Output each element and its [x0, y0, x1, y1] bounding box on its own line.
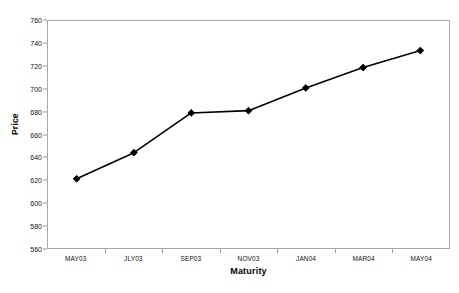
y-axis-tick-mark	[43, 226, 47, 227]
y-axis-tick-label: 660	[30, 131, 42, 138]
y-axis-tick-labels: 760740720700680660640620600580560	[20, 20, 42, 249]
y-axis-tick-mark	[43, 111, 47, 112]
x-axis-title: Maturity	[47, 266, 450, 276]
y-axis-tick-label: 740	[30, 39, 42, 46]
series-price	[48, 21, 449, 248]
x-axis-tick-label: JLY03	[124, 255, 142, 262]
plot-inner	[48, 21, 449, 248]
y-axis-tick-mark	[43, 20, 47, 21]
y-axis-tick-label: 720	[30, 62, 42, 69]
x-axis-tick-label: NOV03	[238, 255, 260, 262]
line-chart: Price 760740720700680660640620600580560 …	[0, 0, 459, 293]
x-axis-tick-label: SEP03	[181, 255, 202, 262]
y-axis-tick-label: 700	[30, 85, 42, 92]
x-axis-tick-mark	[335, 249, 336, 253]
data-point-marker	[360, 64, 367, 71]
plot-area	[47, 20, 450, 249]
x-axis-tick-mark	[392, 249, 393, 253]
x-axis-tick-mark	[105, 249, 106, 253]
y-axis-tick-label: 600	[30, 200, 42, 207]
y-axis-tick-mark	[43, 180, 47, 181]
x-axis-tick-label: MAY03	[65, 255, 86, 262]
y-axis-tick-mark	[43, 65, 47, 66]
y-axis-tick-label: 580	[30, 223, 42, 230]
x-axis-tick-mark	[162, 249, 163, 253]
y-axis-tick-mark	[43, 249, 47, 250]
y-axis-tick-label: 760	[30, 17, 42, 24]
x-axis-tick-label: MAY04	[411, 255, 432, 262]
y-axis-tick-mark	[43, 157, 47, 158]
y-axis-tick-label: 560	[30, 246, 42, 253]
y-axis-tick-label: 680	[30, 108, 42, 115]
series-markers	[73, 47, 423, 182]
y-axis-tick-mark	[43, 42, 47, 43]
data-point-marker	[245, 107, 252, 114]
x-axis-tick-mark	[220, 249, 221, 253]
y-axis-tick-mark	[43, 203, 47, 204]
data-point-marker	[417, 47, 424, 54]
x-axis-tick-label: JAN04	[296, 255, 316, 262]
y-axis-tick-mark	[43, 134, 47, 135]
y-axis-tick-label: 620	[30, 177, 42, 184]
data-point-marker	[73, 175, 80, 182]
x-axis-tick-mark	[277, 249, 278, 253]
data-point-marker	[302, 85, 309, 92]
y-axis-tick-label: 640	[30, 154, 42, 161]
y-axis-tick-mark	[43, 88, 47, 89]
x-axis-tick-label: MAR04	[353, 255, 375, 262]
